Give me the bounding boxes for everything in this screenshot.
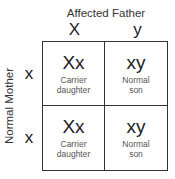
mother-allele-2: x (22, 128, 36, 148)
phenotype-line-2: son (122, 149, 149, 159)
phenotype-line-1: Normal (122, 139, 149, 149)
genotype: Xx (62, 117, 84, 137)
phenotype-line-2: daughter (57, 149, 91, 159)
punnett-square: Xx Carrier daughter xy Normal son Xx Car… (42, 41, 168, 171)
mother-label-container: Normal Mother (0, 41, 18, 171)
mother-allele-1: x (22, 64, 36, 84)
phenotype: Carrier daughter (57, 139, 91, 159)
phenotype: Normal son (122, 75, 149, 95)
cell-top-left: Xx Carrier daughter (43, 42, 105, 106)
genotype: Xx (62, 53, 84, 73)
father-allele-1: X (43, 20, 106, 40)
father-label: Affected Father (42, 7, 170, 19)
father-allele-2: y (106, 20, 169, 40)
cell-bottom-right: xy Normal son (105, 106, 167, 170)
phenotype: Carrier daughter (57, 75, 91, 95)
cell-top-right: xy Normal son (105, 42, 167, 106)
phenotype-line-1: Carrier (57, 75, 91, 85)
mother-label: Normal Mother (3, 68, 15, 144)
genotype: xy (127, 117, 146, 137)
phenotype-line-1: Normal (122, 75, 149, 85)
phenotype-line-2: daughter (57, 85, 91, 95)
phenotype-line-1: Carrier (57, 139, 91, 149)
genotype: xy (127, 53, 146, 73)
cell-bottom-left: Xx Carrier daughter (43, 106, 105, 170)
phenotype-line-2: son (122, 85, 149, 95)
phenotype: Normal son (122, 139, 149, 159)
